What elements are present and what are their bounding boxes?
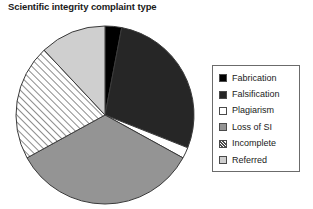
legend-item[interactable]: Falsification	[219, 86, 299, 102]
pie-slice-group	[16, 26, 194, 204]
legend-item[interactable]: Loss of SI	[219, 119, 299, 135]
chart-title: Scientific integrity complaint type	[8, 1, 157, 12]
legend-swatch-referred	[219, 156, 227, 164]
legend-item[interactable]: Fabrication	[219, 70, 299, 86]
legend-item[interactable]: Incomplete	[219, 136, 299, 152]
legend-item-label: Fabrication	[232, 74, 277, 83]
legend-item-label: Referred	[232, 156, 267, 165]
legend-swatch-fabrication	[219, 74, 227, 82]
legend-item-label: Plagiarism	[232, 106, 274, 115]
chart-legend: FabricationFalsificationPlagiarismLoss o…	[212, 65, 300, 172]
legend-item-list: FabricationFalsificationPlagiarismLoss o…	[213, 66, 299, 171]
legend-item[interactable]: Plagiarism	[219, 103, 299, 119]
legend-swatch-incomplete	[219, 140, 227, 148]
legend-swatch-loss-of-si	[219, 123, 227, 131]
legend-item-label: Incomplete	[232, 139, 276, 148]
legend-swatch-falsification	[219, 91, 227, 99]
pie-chart-plot-area	[0, 14, 205, 209]
pie-chart-svg	[0, 14, 205, 209]
pie-chart-figure: Scientific integrity complaint type Fabr…	[0, 0, 313, 209]
legend-item-label: Falsification	[232, 90, 280, 99]
legend-item-label: Loss of SI	[232, 123, 272, 132]
legend-swatch-plagiarism	[219, 107, 227, 115]
legend-item[interactable]: Referred	[219, 152, 299, 168]
